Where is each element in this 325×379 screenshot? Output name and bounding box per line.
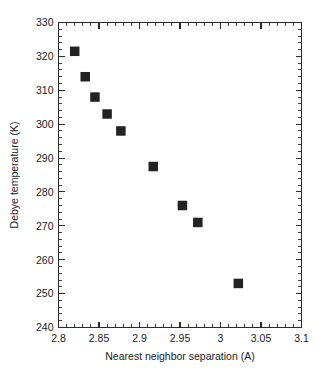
data-point-series — [70, 47, 243, 289]
data-point-marker — [178, 201, 188, 211]
x-tick-label: 2.9 — [132, 332, 147, 344]
x-axis-title: Nearest neighbor separation (A) — [105, 350, 254, 362]
y-tick-label: 250 — [36, 287, 54, 299]
plot-frame — [58, 22, 302, 328]
x-tick-label: 2.85 — [89, 332, 110, 344]
figure-container: 240250260270280290300310320330 2.82.852.… — [0, 0, 325, 379]
y-tick-label: 310 — [36, 84, 54, 96]
data-point-marker — [116, 126, 126, 136]
y-tick-label: 280 — [36, 186, 54, 198]
data-point-marker — [70, 47, 80, 57]
data-point-marker — [102, 109, 112, 119]
x-tick-label: 2.95 — [170, 332, 191, 344]
x-tick-label: 3.05 — [251, 332, 272, 344]
x-tick-label: 2.8 — [51, 332, 66, 344]
x-axis-ticks — [59, 23, 302, 328]
y-tick-label: 320 — [36, 50, 54, 62]
data-point-marker — [234, 279, 244, 289]
y-tick-label: 330 — [36, 16, 54, 28]
caption-strip — [0, 366, 325, 379]
data-point-marker — [193, 218, 203, 228]
y-axis-title: Debye temperature (K) — [8, 122, 20, 229]
y-tick-label: 270 — [36, 220, 54, 232]
y-axis-tick-labels: 240250260270280290300310320330 — [36, 16, 54, 333]
data-point-marker — [80, 72, 90, 82]
x-tick-label: 3 — [218, 332, 224, 344]
data-point-marker — [90, 92, 100, 102]
scatter-plot: 240250260270280290300310320330 2.82.852.… — [0, 0, 325, 379]
x-axis-tick-labels: 2.82.852.92.9533.053.1 — [51, 332, 309, 344]
y-tick-label: 290 — [36, 152, 54, 164]
y-axis-ticks — [59, 23, 302, 328]
data-point-marker — [149, 162, 159, 172]
x-tick-label: 3.1 — [294, 332, 309, 344]
y-tick-label: 300 — [36, 118, 54, 130]
y-tick-label: 260 — [36, 254, 54, 266]
